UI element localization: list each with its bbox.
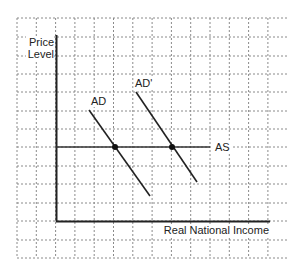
ad-curve xyxy=(89,110,150,196)
diagram-canvas: Price Level AD AD' AS Real National Inco… xyxy=(0,0,303,270)
equilibrium-point-ad-prime xyxy=(169,144,175,150)
ad-prime-label: AD' xyxy=(135,77,152,89)
equilibrium-point-ad xyxy=(112,144,118,150)
y-axis-label-line2: Level xyxy=(28,48,54,60)
x-axis-label: Real National Income xyxy=(164,224,269,236)
ad-label: AD xyxy=(91,95,106,107)
as-label: AS xyxy=(215,141,230,153)
ad-prime-curve xyxy=(136,92,197,182)
y-axis-label-line1: Price xyxy=(29,36,54,48)
